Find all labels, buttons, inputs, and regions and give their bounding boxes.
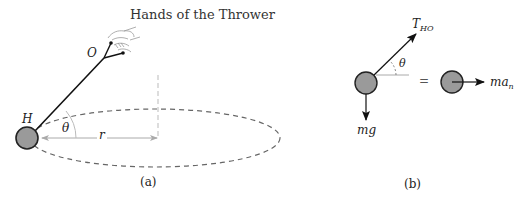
inertia-subscript: n — [509, 82, 514, 91]
weight-label: mg — [357, 124, 376, 136]
caption-b: (b) — [404, 178, 421, 190]
tension-arrow — [373, 34, 416, 76]
bob-h — [16, 127, 38, 149]
diagram-graphics — [0, 0, 526, 202]
inertia-label: man — [490, 76, 514, 88]
tension-subscript: HO — [420, 24, 434, 33]
theta-arc-b — [390, 61, 396, 75]
point-o-label: O — [87, 47, 97, 59]
caption-a: (a) — [140, 176, 157, 188]
point-h-label: H — [22, 113, 32, 125]
theta-label-a: θ — [62, 122, 69, 134]
tension-label: THO — [412, 18, 434, 30]
inertia-main: ma — [490, 75, 509, 89]
hand-icon — [108, 27, 140, 52]
bob-fbd — [355, 72, 377, 94]
figure-canvas: Hands of the Thrower O H θ r (a) THO θ =… — [0, 0, 526, 202]
figure-a — [16, 27, 280, 167]
theta-label-b: θ — [399, 58, 406, 69]
radius-label: r — [97, 129, 107, 141]
hands-of-thrower-label: Hands of the Thrower — [130, 8, 275, 21]
equals-sign: = — [419, 75, 429, 87]
cord-line — [35, 58, 104, 131]
tension-main: T — [412, 17, 420, 31]
fork-arm-2 — [104, 53, 123, 58]
